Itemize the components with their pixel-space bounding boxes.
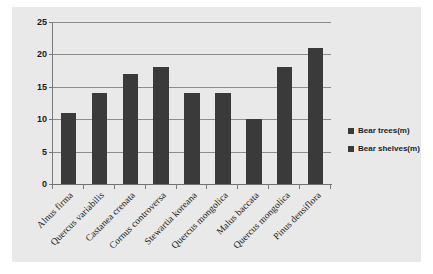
x-axis-tick <box>207 184 238 189</box>
legend-label: Bear shelves(m) <box>358 144 420 153</box>
y-axis-tick-label: 0 <box>42 179 47 189</box>
bar[interactable] <box>123 74 138 184</box>
y-axis-tick-label: 20 <box>37 49 47 59</box>
bar-slot <box>207 22 238 184</box>
chart-legend: Bear trees(m)Bear shelves(m) <box>348 126 433 162</box>
x-axis-tick <box>84 184 115 189</box>
bar[interactable] <box>153 67 168 184</box>
bar-series-bear-trees <box>53 22 331 184</box>
x-axis-tick <box>146 184 177 189</box>
bar[interactable] <box>246 119 261 184</box>
bar-slot <box>238 22 269 184</box>
x-axis-tick <box>300 184 331 189</box>
bar[interactable] <box>215 93 230 184</box>
x-axis-tick <box>238 184 269 189</box>
bar-slot <box>146 22 177 184</box>
x-axis-ticks <box>52 184 331 189</box>
legend-item[interactable]: Bear shelves(m) <box>348 144 433 153</box>
bar-slot <box>300 22 331 184</box>
plot-area: 0510152025 <box>52 22 331 184</box>
legend-swatch-icon <box>348 146 354 152</box>
legend-swatch-icon <box>348 128 354 134</box>
chart-canvas: 0510152025 Alnus firmaQuercus variabilis… <box>12 7 421 262</box>
bar-slot <box>269 22 300 184</box>
x-axis-tick <box>52 184 84 189</box>
x-axis-tick <box>269 184 300 189</box>
bar[interactable] <box>308 48 323 184</box>
bar[interactable] <box>61 113 76 184</box>
bar-slot <box>177 22 208 184</box>
y-axis-tick-label: 5 <box>42 147 47 157</box>
legend-label: Bear trees(m) <box>358 126 410 135</box>
y-axis-tick-label: 10 <box>37 114 47 124</box>
bar-slot <box>115 22 146 184</box>
y-axis-tick-label: 15 <box>37 82 47 92</box>
y-axis-tick-label: 25 <box>37 17 47 27</box>
bar-slot <box>84 22 115 184</box>
x-axis-labels: Alnus firmaQuercus variabilisCastanea cr… <box>52 190 331 270</box>
bar-slot <box>53 22 84 184</box>
bar[interactable] <box>184 93 199 184</box>
x-axis-tick <box>115 184 146 189</box>
bar[interactable] <box>92 93 107 184</box>
bar-chart: 0510152025 Alnus firmaQuercus variabilis… <box>0 0 433 274</box>
legend-item[interactable]: Bear trees(m) <box>348 126 433 135</box>
bar[interactable] <box>277 67 292 184</box>
x-axis-label-slot: Pinus densiflora <box>300 190 331 270</box>
x-axis-tick <box>177 184 208 189</box>
